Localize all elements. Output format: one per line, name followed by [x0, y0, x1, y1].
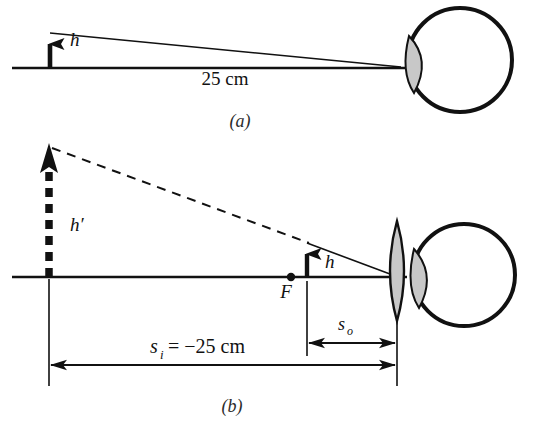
figure-canvas: h 25 cm (a): [0, 0, 537, 428]
near-point-distance-label: 25 cm: [202, 68, 249, 89]
chief-ray-a: [50, 33, 401, 67]
image-distance-symbol: s: [150, 335, 158, 357]
image-arrowhead-b: [40, 143, 58, 173]
panel-b: h′ h F s o s i = −25 cm (b): [12, 143, 515, 417]
object-distance-symbol: s: [338, 314, 345, 334]
panel-caption-b: (b): [222, 396, 243, 417]
eye-sclera-b: [413, 224, 515, 326]
object-distance-subscript: o: [347, 324, 353, 338]
object-height-label-a: h: [70, 29, 80, 50]
image-height-label: h′: [70, 214, 85, 235]
focal-point-label: F: [279, 281, 292, 302]
panel-a: h 25 cm (a): [12, 8, 512, 132]
focal-point-dot: [287, 273, 295, 281]
virtual-ray-dashed: [52, 148, 309, 243]
optics-figure: h 25 cm (a): [0, 0, 537, 428]
object-distance-label: s o: [338, 314, 353, 338]
converging-lens: [390, 221, 404, 321]
object-height-label-b: h: [325, 251, 335, 272]
panel-caption-a: (a): [230, 111, 251, 132]
image-distance-value: = −25 cm: [168, 335, 245, 357]
image-distance-label: s i = −25 cm: [150, 335, 245, 362]
eye-sclera-a: [408, 8, 512, 112]
chief-ray-b: [307, 243, 398, 277]
image-distance-subscript: i: [160, 347, 164, 362]
